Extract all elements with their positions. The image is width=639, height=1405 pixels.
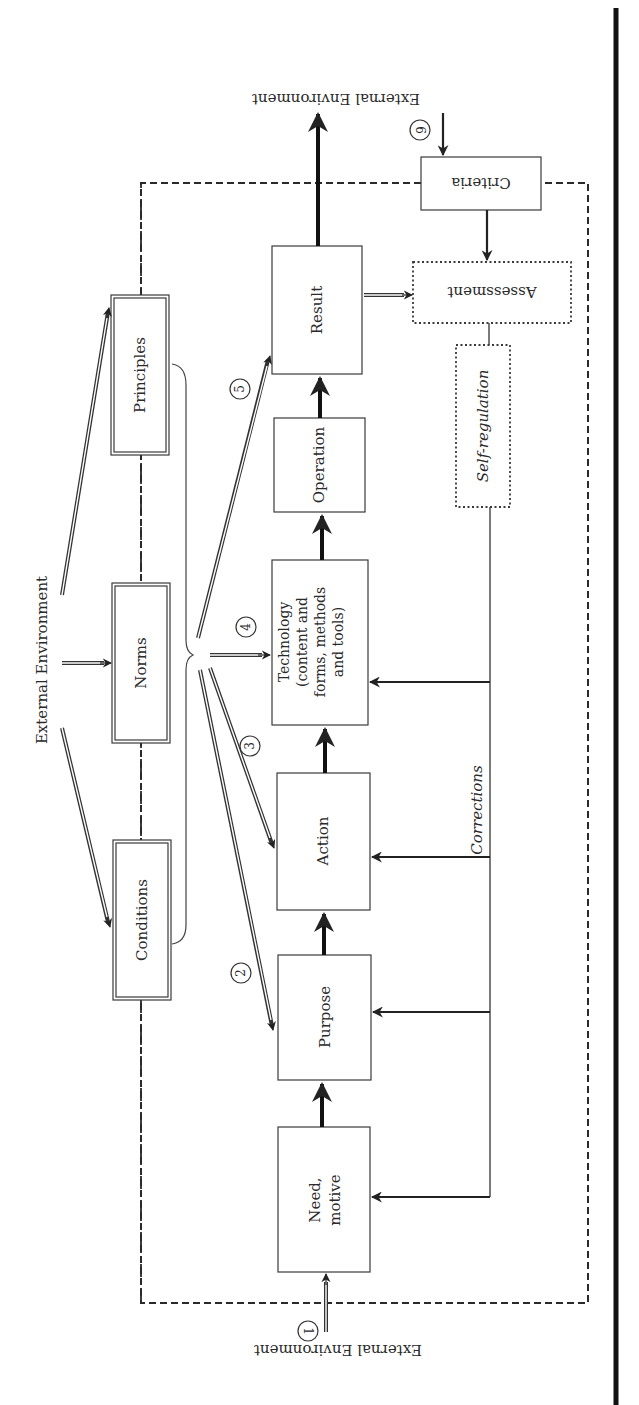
env-to-conditions-arrow — [62, 728, 110, 927]
external-environment-top-label: External Environment — [252, 90, 420, 108]
svg-text:3: 3 — [243, 742, 257, 750]
action-box: Action — [277, 773, 370, 910]
technology-box: Technology (content and forms, methods a… — [272, 560, 368, 725]
technology-label-line3: forms, methods — [312, 587, 328, 697]
self-regulation-label: Self-regulation — [474, 370, 492, 483]
brace-to-result-arrow — [198, 356, 270, 638]
operation-box: Operation — [274, 418, 365, 512]
action-label: Action — [314, 816, 332, 866]
criteria-label: Criteria — [451, 174, 510, 192]
result-box: Result — [272, 246, 362, 374]
purpose-box: Purpose — [278, 955, 371, 1080]
technology-label-line1: Technology — [276, 602, 292, 683]
need-motive-box: Need, motive — [278, 1127, 370, 1272]
marker-2: 2 — [231, 963, 251, 983]
assessment-label: Assessment — [447, 283, 537, 301]
technology-label-line4: and tools) — [330, 607, 346, 677]
purpose-label: Purpose — [316, 986, 334, 1048]
svg-text:2: 2 — [234, 969, 248, 977]
result-label: Result — [308, 286, 326, 334]
env-to-principles-arrow — [62, 308, 109, 595]
self-regulation-box: Self-regulation — [456, 345, 510, 507]
conditions-label: Conditions — [133, 879, 151, 961]
svg-text:1: 1 — [301, 1327, 315, 1335]
external-environment-left-label: External Environment — [33, 576, 51, 744]
marker-1: 1 — [298, 1321, 318, 1341]
principles-label: Principles — [131, 337, 149, 413]
constraints-brace — [172, 364, 193, 944]
corrections-label: Corrections — [468, 765, 486, 855]
norms-label: Norms — [132, 637, 150, 688]
assessment-box: Assessment — [413, 262, 571, 323]
external-environment-bottom-label: External Environment — [254, 1341, 422, 1359]
marker-4: 4 — [236, 617, 256, 637]
operation-label: Operation — [310, 426, 328, 503]
need-label-line2: motive — [326, 1174, 344, 1226]
marker-5: 5 — [230, 379, 250, 399]
svg-text:6: 6 — [413, 126, 427, 134]
conditions-box: Conditions — [113, 840, 171, 1000]
marker-3: 3 — [240, 736, 260, 756]
svg-text:4: 4 — [239, 623, 253, 631]
norms-box: Norms — [112, 583, 170, 743]
svg-text:5: 5 — [233, 385, 247, 393]
need-label-line1: Need, — [306, 1177, 324, 1222]
activity-structure-diagram: Principles Norms Conditions External Env… — [0, 0, 639, 1405]
technology-label-line2: (content and — [294, 597, 310, 687]
criteria-box: Criteria — [421, 157, 541, 210]
marker-6: 6 — [410, 120, 430, 140]
principles-box: Principles — [111, 295, 169, 455]
